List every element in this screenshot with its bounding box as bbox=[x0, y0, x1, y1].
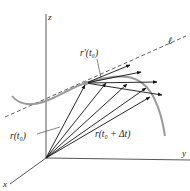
derivative-vector-label: r′(t₀) bbox=[80, 48, 98, 59]
derivative-leader bbox=[97, 59, 101, 78]
y-axis-label: y bbox=[181, 148, 186, 158]
secant-vector-2 bbox=[86, 82, 157, 83]
derivative-vector bbox=[86, 65, 130, 83]
z-axis-label: z bbox=[47, 12, 52, 22]
position-vector-3 bbox=[46, 88, 146, 158]
position-vector-label: r(t₀) bbox=[10, 131, 26, 142]
x-axis-label: x bbox=[2, 179, 7, 189]
x-axis bbox=[10, 158, 46, 184]
position-vector-r-t0-dt bbox=[46, 97, 150, 158]
axes bbox=[10, 14, 190, 184]
tangent-vector-diagram: z y x ℓ r′(t₀) r(t₀) r(t₀ + Δt) bbox=[0, 0, 190, 191]
displaced-position-vector-label: r(t₀ + Δt) bbox=[95, 129, 130, 140]
position-leader bbox=[37, 127, 60, 134]
y-axis bbox=[46, 158, 190, 160]
space-curve bbox=[12, 76, 165, 136]
tangent-point bbox=[84, 81, 88, 85]
tangent-line-label: ℓ bbox=[168, 35, 172, 46]
